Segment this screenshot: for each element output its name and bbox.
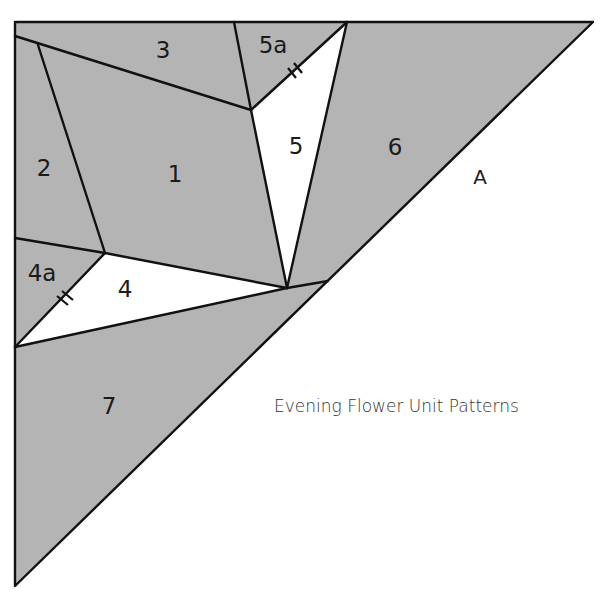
pattern-diagram: 1 2 3 4 4a 5 5a 6 7 A Evening Flower Uni… <box>0 0 601 602</box>
label-piece-6: 6 <box>388 134 403 160</box>
label-piece-4a: 4a <box>28 260 57 286</box>
label-piece-5: 5 <box>289 133 304 159</box>
diagram-caption: Evening Flower Unit Patterns <box>274 396 519 416</box>
label-piece-5a: 5a <box>259 32 288 58</box>
label-piece-3: 3 <box>156 37 171 63</box>
unit-label: A <box>473 165 487 189</box>
label-piece-2: 2 <box>37 155 52 181</box>
label-piece-4: 4 <box>118 276 133 302</box>
label-piece-1: 1 <box>168 161 183 187</box>
label-piece-7: 7 <box>102 393 117 419</box>
